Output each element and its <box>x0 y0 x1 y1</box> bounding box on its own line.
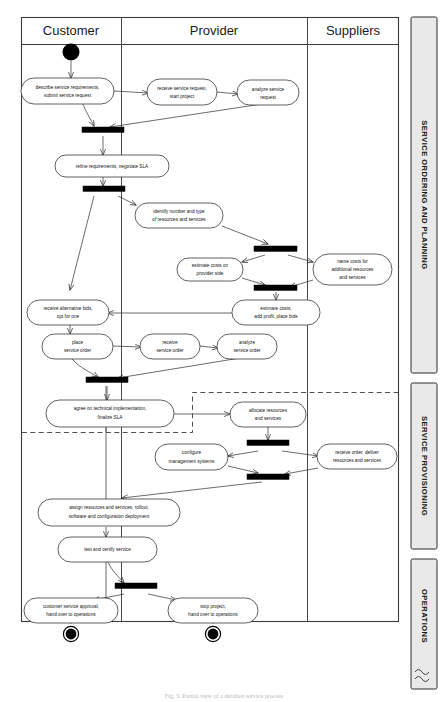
activity-node-n17[interactable]: assign resources and services, rollout, … <box>38 499 180 526</box>
activity-node-n19-line-1: hand over to operations <box>46 612 96 617</box>
activity-node-n02-line-1: start project <box>170 94 195 99</box>
phase-bar-provisioning: SERVICE PROVISIONING <box>411 383 437 549</box>
activity-node-n10[interactable]: place service order <box>42 334 113 359</box>
sync-bar-1 <box>82 127 124 132</box>
activity-node-n11-line-1: service order <box>156 348 184 353</box>
activity-node-n11[interactable]: receive service order <box>140 334 200 359</box>
figure-caption: Fig. 3. Partial view of a detailed servi… <box>165 692 284 699</box>
activity-node-n07-line-2: and services <box>339 275 366 280</box>
activity-node-n15-line-0: configure <box>182 450 202 455</box>
activity-node-n14[interactable]: allocate resources and services <box>230 402 306 427</box>
sync-bar-3 <box>254 246 297 251</box>
activity-node-n02-line-0: receive service request, <box>157 86 207 91</box>
activity-node-n19-line-0: customer service approval, <box>43 604 99 609</box>
activity-node-n20-line-0: stop project, <box>200 604 226 609</box>
activity-node-n15-line-1: management systems <box>169 459 216 464</box>
phase-bars: SERVICE ORDERING AND PLANNING SERVICE PR… <box>411 17 437 689</box>
end-nodes <box>63 626 220 641</box>
activity-node-n16-line-0: receive order, deliver <box>335 450 379 455</box>
activity-node-n06-line-0: estimate costs on <box>192 263 229 268</box>
activity-node-n04-line-0: refine requirements, negotiate SLA <box>76 164 149 169</box>
phase-bar-provisioning-label: SERVICE PROVISIONING <box>420 416 429 516</box>
lane-title-provider: Provider <box>190 23 239 38</box>
activity-node-n12-line-1: service order <box>233 348 261 353</box>
activity-node-n10-line-1: service order <box>64 348 92 353</box>
sync-bar-6 <box>247 440 289 445</box>
activity-node-n12-line-0: analyze <box>239 340 256 345</box>
activity-node-n19[interactable]: customer service approval, hand over to … <box>24 598 118 623</box>
activity-node-n03[interactable]: analyze service request <box>237 80 299 105</box>
activity-node-n01-line-0: describe service requirements, <box>36 85 100 90</box>
activity-node-n13[interactable]: agree on technical implementation, final… <box>46 400 174 427</box>
end-node-provider <box>205 626 220 641</box>
uml-activity-diagram-canvas: Customer Provider Suppliers <box>0 0 448 702</box>
activity-node-n15[interactable]: configure management systems <box>155 444 228 470</box>
activity-node-n07-line-0: name costs for <box>337 259 368 264</box>
activity-nodes: describe service requirements, submit se… <box>21 78 397 623</box>
activity-node-n12[interactable]: analyze service order <box>217 334 277 359</box>
lane-header-row: Customer Provider Suppliers <box>43 23 381 38</box>
activity-node-n03-line-1: request <box>260 95 276 100</box>
sync-bar-5 <box>86 377 128 382</box>
activity-node-n02[interactable]: receive service request, start project <box>147 79 217 105</box>
activity-node-n16-line-1: resources and services <box>333 458 382 463</box>
lane-title-customer: Customer <box>43 23 100 38</box>
phase-bar-operations: OPERATIONS <box>411 559 437 689</box>
activity-node-n13-line-1: finalize SLA <box>98 415 124 420</box>
activity-node-n20-line-1: hand over to operations <box>188 612 238 617</box>
activity-node-n08-line-0: estimate costs, <box>260 306 291 311</box>
activity-node-n17-line-1: software and configuration deployment <box>69 514 150 519</box>
activity-node-n07[interactable]: name costs for additional resources and … <box>313 254 392 285</box>
activity-node-n01[interactable]: describe service requirements, submit se… <box>21 78 114 104</box>
activity-node-n06-line-1: provider side <box>197 271 224 276</box>
sync-bar-7 <box>247 474 289 479</box>
start-node <box>63 44 80 61</box>
sync-bar-8 <box>115 583 157 588</box>
activity-node-n09-line-1: opt for one <box>57 314 80 319</box>
activity-node-n07-line-1: additional resources <box>332 267 375 272</box>
activity-node-n06[interactable]: estimate costs on provider side <box>177 258 243 281</box>
activity-node-n14-line-1: and services <box>255 416 282 421</box>
activity-node-n18[interactable]: test and certify service <box>58 537 157 562</box>
activity-node-n03-line-0: analyze service <box>252 87 285 92</box>
activity-node-n16[interactable]: receive order, deliver resources and ser… <box>317 444 397 469</box>
activity-node-n13-line-0: agree on technical implementation, <box>74 406 147 411</box>
activity-node-n11-line-0: receive <box>162 340 178 345</box>
activity-node-n05-line-1: of resources and services <box>152 217 206 222</box>
activity-node-n20[interactable]: stop project, hand over to operations <box>168 598 258 623</box>
end-node-customer <box>63 626 78 641</box>
sync-bar-4 <box>254 285 297 290</box>
activity-diagram-figure: Customer Provider Suppliers <box>0 0 448 702</box>
activity-node-n14-line-0: allocate resources <box>249 408 288 413</box>
activity-node-n01-line-1: submit service request <box>44 93 92 98</box>
activity-node-n17-line-0: assign resources and services, rollout, <box>69 505 149 510</box>
activity-node-n08-line-1: add profit, place bids <box>254 314 298 319</box>
activity-node-n10-line-0: place <box>72 340 84 345</box>
activity-node-n04[interactable]: refine requirements, negotiate SLA <box>55 155 169 177</box>
phase-bar-ordering: SERVICE ORDERING AND PLANNING <box>411 17 437 373</box>
activity-node-n09-line-0: receive alternative bids, <box>43 306 92 311</box>
lane-title-suppliers: Suppliers <box>326 23 381 38</box>
activity-node-n08[interactable]: estimate costs, add profit, place bids <box>232 300 320 325</box>
activity-node-n05[interactable]: identify number and type of resources an… <box>135 203 223 228</box>
phase-bar-operations-label: OPERATIONS <box>420 589 429 643</box>
sync-bar-2 <box>83 186 125 191</box>
phase-bar-ordering-label: SERVICE ORDERING AND PLANNING <box>420 120 429 269</box>
activity-node-n05-line-0: identify number and type <box>153 209 205 214</box>
activity-node-n09[interactable]: receive alternative bids, opt for one <box>27 300 109 325</box>
activity-node-n18-line-0: test and certify service <box>84 547 131 552</box>
